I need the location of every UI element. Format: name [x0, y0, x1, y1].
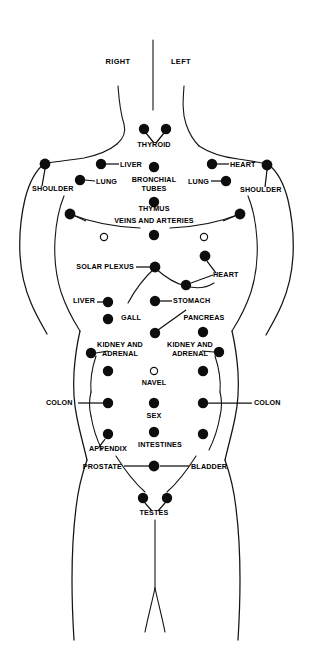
- label-navel: NAVEL: [142, 378, 167, 387]
- label-bladder: BLADDER: [191, 462, 228, 471]
- right-hip-leg-outline: [225, 460, 240, 640]
- trapezius-left: [46, 144, 117, 163]
- label-solar-plexus: SOLAR PLEXUS: [76, 262, 134, 271]
- reflex-point-thyroid-left[interactable]: [139, 124, 149, 134]
- reflex-point-solar-plexus[interactable]: [150, 262, 161, 273]
- reflex-point-veins-arteries-center[interactable]: [149, 230, 159, 240]
- label-heart-upper: HEART: [230, 160, 256, 169]
- reflex-point-pancreas-right[interactable]: [198, 327, 208, 337]
- left-hip-leg-outline: [72, 460, 87, 640]
- label-veins-and-arteries: VEINS AND ARTERIES: [114, 216, 194, 225]
- reflex-point-liver-lower[interactable]: [103, 297, 113, 307]
- label-gall: GALL: [121, 313, 142, 322]
- reflex-point-appendix[interactable]: [103, 429, 113, 439]
- reflex-point-shoulder-right[interactable]: [262, 160, 273, 171]
- anatomy-diagram: THYROIDLIVERLUNGBRONCHIALTUBESHEARTLUNGS…: [0, 0, 314, 651]
- label-bronchial-tubes-1: BRONCHIAL: [132, 175, 177, 184]
- reflex-point-colon-left-2[interactable]: [103, 398, 113, 408]
- reflex-point-kidney-adrenal-right[interactable]: [214, 347, 224, 357]
- reflex-point-kidney-adrenal-left[interactable]: [86, 348, 96, 358]
- leader-veins-right: [223, 216, 235, 221]
- reflex-point-veins-arteries-right[interactable]: [235, 209, 246, 220]
- label-heart-lower: HEART: [213, 270, 239, 279]
- reflex-point-intestines[interactable]: [149, 427, 159, 437]
- label-prostate: PROSTATE: [83, 462, 122, 471]
- label-testes: TESTES: [140, 508, 169, 517]
- reflex-point-colon-left-1[interactable]: [103, 366, 113, 376]
- neck-right-contour: [183, 86, 199, 146]
- reflex-point-testes-right[interactable]: [162, 493, 172, 503]
- reflex-point-sex[interactable]: [149, 398, 159, 408]
- label-lung-right: LUNG: [188, 177, 209, 186]
- reflex-point-testes-left[interactable]: [138, 493, 148, 503]
- reflex-point-heart-upper[interactable]: [207, 159, 217, 169]
- label-pancreas: PANCREAS: [183, 313, 224, 322]
- reflex-point-lung-right[interactable]: [221, 176, 231, 186]
- label-liver-upper: LIVER: [120, 160, 143, 169]
- neck-left-contour: [117, 86, 125, 144]
- reflex-point-nipple-left[interactable]: [100, 233, 107, 240]
- reflex-point-stomach[interactable]: [150, 296, 160, 306]
- label-intestines: INTESTINES: [138, 440, 182, 449]
- reflex-point-liver-upper[interactable]: [96, 159, 106, 169]
- reflex-point-gall[interactable]: [103, 314, 113, 324]
- label-colon-left: COLON: [46, 398, 73, 407]
- flank-left-upper: [91, 356, 96, 392]
- reflex-point-heart-lower[interactable]: [181, 280, 191, 290]
- label-thyroid: THYROID: [137, 140, 170, 149]
- inner-leg-right: [155, 588, 165, 632]
- left-torso-waist: [74, 331, 87, 460]
- label-thymus: THYMUS: [138, 204, 169, 213]
- orientation-labels-layer: RIGHTLEFT: [106, 57, 192, 66]
- anatomy-svg: THYROIDLIVERLUNGBRONCHIALTUBESHEARTLUNGS…: [0, 0, 314, 651]
- orientation-label-left: LEFT: [171, 57, 191, 66]
- label-liver-lower: LIVER: [73, 296, 96, 305]
- reflex-point-bronchial-tubes[interactable]: [149, 162, 159, 172]
- leader-pancreas-center: [158, 310, 186, 330]
- reflex-point-navel[interactable]: [150, 367, 157, 374]
- orientation-label-right: RIGHT: [106, 57, 131, 66]
- body-outline-group: [20, 40, 294, 640]
- reflex-point-colon-right-3[interactable]: [198, 429, 208, 439]
- reflex-point-thyroid-right[interactable]: [161, 124, 171, 134]
- reflex-point-veins-arteries-left[interactable]: [65, 209, 76, 220]
- label-stomach: STOMACH: [173, 296, 210, 305]
- label-kidney-adrenal-right-1: KIDNEY AND: [167, 340, 213, 349]
- label-kidney-adrenal-left-2: ADRENAL: [102, 349, 139, 358]
- label-sex: SEX: [147, 411, 162, 420]
- leader-heart-lower: [191, 275, 213, 283]
- right-torso-waist: [225, 331, 238, 460]
- label-shoulder-left: SHOULDER: [32, 184, 74, 193]
- flank-right-upper: [215, 356, 220, 392]
- reflex-point-nipple-right[interactable]: [200, 233, 207, 240]
- reflex-point-pancreas-center[interactable]: [150, 328, 160, 338]
- reflex-point-shoulder-left[interactable]: [40, 159, 51, 170]
- leader-lung-left: [85, 180, 95, 181]
- label-bronchial-tubes-2: TUBES: [141, 184, 166, 193]
- reflex-point-colon-right-2[interactable]: [198, 398, 208, 408]
- label-shoulder-right: SHOULDER: [240, 185, 282, 194]
- reflex-point-heart-upper-lower[interactable]: [200, 251, 211, 262]
- flank-right-mid: [220, 392, 222, 416]
- flank-left-mid: [90, 392, 92, 416]
- reflex-point-lung-left[interactable]: [75, 175, 85, 185]
- reflex-point-colon-right-1[interactable]: [198, 366, 208, 376]
- flank-right-lower: [209, 416, 220, 450]
- label-lung-left: LUNG: [96, 177, 117, 186]
- label-kidney-adrenal-left-1: KIDNEY AND: [97, 340, 143, 349]
- label-colon-right: COLON: [254, 398, 281, 407]
- reflex-point-prostate-bladder[interactable]: [149, 461, 160, 472]
- label-kidney-adrenal-right-2: ADRENAL: [172, 349, 209, 358]
- inner-leg-left: [145, 588, 155, 632]
- label-appendix: APPENDIX: [89, 444, 127, 453]
